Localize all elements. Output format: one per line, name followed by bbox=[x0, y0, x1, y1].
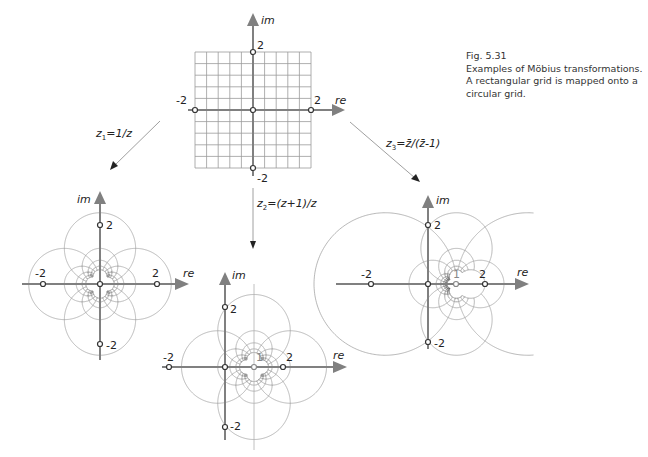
tick-label-im-2: 2 bbox=[230, 303, 237, 316]
tick-label-re-1: 1 bbox=[453, 268, 460, 281]
tick-label-im-2: 2 bbox=[257, 39, 264, 52]
panel-z1: re im 2 -2 2 -2 bbox=[22, 191, 195, 360]
tick-label-re-2: 2 bbox=[314, 94, 321, 107]
tick-label-im-neg2: -2 bbox=[230, 420, 241, 433]
tick-label-im-2: 2 bbox=[434, 219, 441, 232]
real-axis-label: re bbox=[333, 349, 345, 362]
tick-label-im-neg2: -2 bbox=[434, 337, 445, 350]
real-axis-arrowhead-icon bbox=[515, 278, 529, 290]
tick-label-re-neg2: -2 bbox=[361, 268, 372, 281]
panel-original-grid: re im 2 -2 2 -2 bbox=[176, 13, 347, 185]
arrow-to-z3 bbox=[350, 122, 415, 178]
formula-z2: z2=(z+1)/z bbox=[256, 197, 317, 212]
tick-label-re-2: 2 bbox=[152, 267, 159, 280]
formula-z3: z3=z̄/(z̄-1) bbox=[385, 137, 440, 152]
figure-number: Fig. 5.31 bbox=[466, 50, 643, 63]
caption-line-3: circular grid. bbox=[466, 88, 643, 101]
arrow-to-z1-head-icon bbox=[110, 161, 118, 170]
panel-z2: re im 2 1 -2 2 -2 bbox=[162, 269, 347, 450]
panel-z3: re im 2 1 -2 2 -2 bbox=[314, 194, 599, 355]
imag-axis-arrowhead-icon bbox=[422, 195, 434, 208]
grid-line bbox=[449, 288, 462, 298]
tick-label-re-neg2: -2 bbox=[35, 267, 46, 280]
imag-axis-label: im bbox=[261, 14, 275, 27]
imag-axis-label: im bbox=[436, 194, 450, 207]
caption-line-1: Examples of Möbius transformations. bbox=[466, 63, 643, 76]
tick-label-im-neg2: -2 bbox=[257, 172, 268, 185]
imag-axis-arrowhead-icon bbox=[247, 13, 259, 26]
imag-axis-arrowhead-icon bbox=[94, 191, 106, 204]
tick-label-re-2: 2 bbox=[286, 351, 293, 364]
real-axis-label: re bbox=[517, 266, 529, 279]
tick-label-re-2: 2 bbox=[479, 268, 486, 281]
tick-label-re-1: 1 bbox=[256, 351, 263, 364]
grid-line bbox=[421, 285, 492, 355]
imag-axis-arrowhead-icon bbox=[219, 272, 231, 285]
imag-axis-label: im bbox=[77, 193, 91, 206]
arrow-to-z2-head-icon bbox=[250, 241, 256, 249]
tick-label-im-neg2: -2 bbox=[106, 339, 117, 352]
figure-caption: Fig. 5.31 Examples of Möbius transformat… bbox=[466, 50, 643, 100]
tick-label-im-2: 2 bbox=[106, 219, 113, 232]
real-axis-label: re bbox=[183, 267, 195, 280]
tick-label-re-neg2: -2 bbox=[163, 351, 174, 364]
grid-line bbox=[439, 286, 475, 319]
tick-label-re-neg2: -2 bbox=[176, 94, 187, 107]
real-axis-arrowhead-icon bbox=[333, 361, 347, 373]
real-axis-label: re bbox=[335, 94, 347, 107]
caption-line-2: A rectangular grid is mapped onto a bbox=[466, 75, 643, 88]
imag-axis-label: im bbox=[232, 269, 246, 282]
formula-z1: z1=1/z bbox=[95, 127, 132, 142]
